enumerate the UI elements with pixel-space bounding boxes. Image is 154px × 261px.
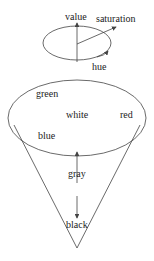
white-label: white <box>66 109 89 120</box>
hsv-cone-diagram: value saturation hue green white red blu… <box>0 0 154 261</box>
green-label: green <box>36 88 58 99</box>
blue-label: blue <box>38 130 56 141</box>
saturation-label: saturation <box>96 13 135 24</box>
saturation-axis <box>77 27 116 44</box>
black-label: black <box>66 219 88 230</box>
gray-label: gray <box>68 168 86 179</box>
red-label: red <box>120 109 133 120</box>
hsv-axes-icon <box>43 23 116 62</box>
value-label: value <box>65 11 87 22</box>
hue-label: hue <box>92 61 107 72</box>
